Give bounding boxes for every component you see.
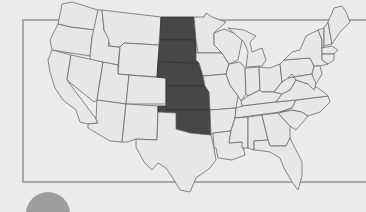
state-new-mexico — [122, 104, 158, 142]
us-map — [0, 0, 366, 212]
state-montana — [102, 10, 161, 47]
state-maine — [328, 6, 350, 44]
state-wyoming — [118, 43, 159, 77]
legend-circle-marker — [26, 192, 70, 212]
state-colorado — [126, 75, 166, 104]
state-massachusetts — [322, 46, 338, 54]
state-kansas — [166, 86, 210, 110]
state-south-dakota — [158, 40, 199, 63]
map-figure: United States map — [0, 0, 366, 212]
state-north-dakota — [160, 17, 196, 40]
